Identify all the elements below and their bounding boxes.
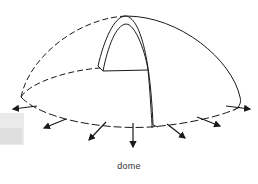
dome-outline: [21, 16, 241, 127]
dome-diagram: [0, 0, 258, 184]
arch-rib: [98, 16, 158, 128]
figure-caption: dome: [0, 161, 258, 171]
thrust-arrows: [13, 106, 250, 147]
arrow-icon: [167, 124, 185, 138]
arrow-icon: [13, 106, 37, 109]
arrow-icon: [44, 119, 66, 128]
